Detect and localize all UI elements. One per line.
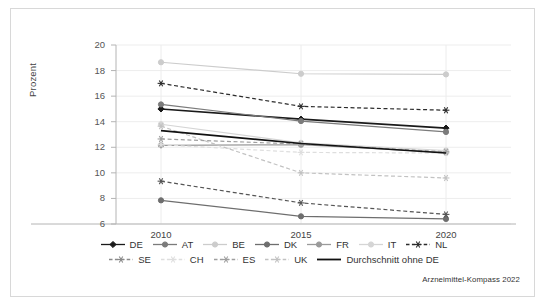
legend-item-at[interactable]: AT <box>152 239 193 250</box>
legend-symbol-dk <box>254 239 280 250</box>
y-tick-label: 18 <box>83 65 105 76</box>
legend-symbol-at <box>152 239 178 250</box>
legend-item-label: FR <box>336 239 349 250</box>
legend-item-uk[interactable]: UK <box>264 254 307 265</box>
legend-item-label: NL <box>435 239 447 250</box>
legend-item-label: ES <box>243 254 256 265</box>
legend-item-label: DK <box>284 239 297 250</box>
legend-item-be[interactable]: BE <box>202 239 245 250</box>
legend-item-label: AT <box>182 239 193 250</box>
y-axis-label: Prozent <box>27 63 38 97</box>
legend-item-label: CH <box>190 254 204 265</box>
legend-item-dk[interactable]: DK <box>254 239 297 250</box>
series-se <box>158 178 450 217</box>
legend-item-fr[interactable]: FR <box>306 239 349 250</box>
legend-item-label: UK <box>294 254 307 265</box>
legend-symbol-uk <box>264 254 290 265</box>
legend-item-se[interactable]: SE <box>108 254 151 265</box>
legend-item-nl[interactable]: NL <box>405 239 447 250</box>
chart-figure: Prozent 20181614121086 201020152020 DEAT… <box>10 8 535 297</box>
legend-symbol-ch <box>160 254 186 265</box>
legend-item-ch[interactable]: CH <box>160 254 204 265</box>
legend-item-label: IT <box>388 239 396 250</box>
y-tick-label: 10 <box>83 167 105 178</box>
legend-item-es[interactable]: ES <box>213 254 256 265</box>
legend-symbol-it <box>358 239 384 250</box>
legend-item-label: SE <box>138 254 151 265</box>
legend-item-label: BE <box>232 239 245 250</box>
series-dk <box>158 198 448 222</box>
y-tick-label: 12 <box>83 141 105 152</box>
legend-item-label: DE <box>130 239 143 250</box>
legend-item-label: Durchschnitt ohne DE <box>346 254 438 265</box>
series-nl <box>158 80 450 113</box>
legend-symbol-nl <box>405 239 431 250</box>
y-tick-label: 6 <box>83 218 105 229</box>
y-tick-label: 20 <box>83 39 105 50</box>
legend-symbol-durchschnitt-ohne-de <box>316 254 342 265</box>
chart-legend: DEATBEDKFRITNL SECHESUKDurchschnitt ohne… <box>11 237 536 267</box>
legend-item-durchschnitt-ohne-de[interactable]: Durchschnitt ohne DE <box>316 254 438 265</box>
legend-symbol-se <box>108 254 134 265</box>
y-tick-label: 14 <box>83 116 105 127</box>
source-note: Arzneimittel-Kompass 2022 <box>422 275 520 284</box>
legend-row-1: DEATBEDKFRITNL <box>11 237 536 252</box>
legend-row-2: SECHESUKDurchschnitt ohne DE <box>11 252 536 267</box>
y-tick-label: 16 <box>83 90 105 101</box>
legend-symbol-es <box>213 254 239 265</box>
legend-item-it[interactable]: IT <box>358 239 396 250</box>
legend-symbol-be <box>202 239 228 250</box>
legend-item-de[interactable]: DE <box>100 239 143 250</box>
series-be <box>158 60 448 77</box>
legend-symbol-fr <box>306 239 332 250</box>
legend-symbol-de <box>100 239 126 250</box>
y-tick-label: 8 <box>83 192 105 203</box>
